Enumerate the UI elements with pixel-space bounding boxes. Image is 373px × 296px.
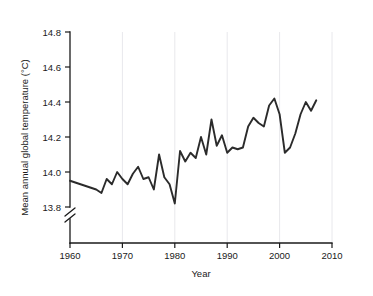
y-tick-label-13.8: 13.8	[43, 202, 62, 213]
x-tick-label-1980: 1980	[164, 250, 185, 261]
x-tick-label-1960: 1960	[59, 250, 80, 261]
x-tick-label-1990: 1990	[217, 250, 238, 261]
y-tick-label-14.4: 14.4	[43, 97, 62, 108]
temperature-line-chart: 14.8 14.6 14.4 14.2 14.0 13.8 1960 1970 …	[0, 0, 373, 296]
y-tick-label-14.8: 14.8	[43, 27, 62, 38]
y-axis-title: Mean annual global temperature (°C)	[19, 59, 30, 215]
x-tick-label-2000: 2000	[269, 250, 290, 261]
y-tick-label-14.0: 14.0	[43, 167, 62, 178]
y-tick-label-14.6: 14.6	[43, 62, 62, 73]
x-axis-title: Year	[191, 268, 210, 279]
x-tick-label-2010: 2010	[321, 250, 342, 261]
chart-figure: 14.8 14.6 14.4 14.2 14.0 13.8 1960 1970 …	[0, 0, 373, 296]
y-tick-label-14.2: 14.2	[43, 132, 62, 143]
x-tick-label-1970: 1970	[112, 250, 133, 261]
